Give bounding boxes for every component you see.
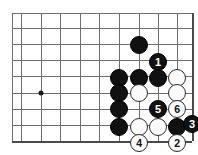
grid-line-horizontal [12,44,192,45]
grid-line-horizontal [12,28,192,29]
grid-line-vertical [80,13,81,141]
stone-white-stone-g [130,84,148,102]
stone-move-2-white: 2 [168,134,186,152]
stone-move-6-white: 6 [168,100,186,118]
stone-black-stone-e [149,69,167,87]
stone-move-3-black: 3 [183,115,198,133]
grid-line-horizontal [12,13,192,14]
stone-move-4-white: 4 [130,134,148,152]
stone-black-stone-j [110,118,128,136]
stone-black-stone-i [110,100,128,118]
move-number-label: 4 [136,138,142,149]
stone-white-stone-l [149,118,167,136]
grid-line-vertical [21,13,22,141]
stone-move-5-black: 5 [149,100,167,118]
star-point-left-icon [39,91,44,96]
grid-line-vertical [12,13,13,141]
grid-line-vertical [99,13,100,141]
board-edge-line-bottom [12,141,192,143]
grid-line-vertical [60,13,61,141]
stone-black-stone-a [130,36,148,54]
move-number-label: 5 [155,104,161,115]
go-board-diagram: 156342 [0,0,198,155]
move-number-label: 6 [174,104,180,115]
move-number-label: 1 [155,57,161,68]
move-number-label: 3 [189,119,195,130]
grid-line-vertical [41,13,42,141]
move-number-label: 2 [174,138,180,149]
